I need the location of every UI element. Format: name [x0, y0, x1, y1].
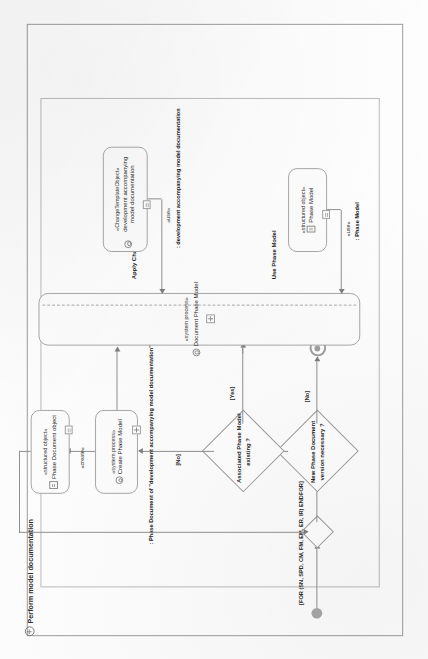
edge-change-template-to-region: [161, 199, 162, 289]
system-process-icon: [116, 476, 124, 484]
scanned-page-background: Perform model documentation [FOR (SN, SP…: [0, 0, 428, 659]
diagram-canvas: Perform model documentation [FOR (SN, SP…: [19, 17, 409, 641]
phase-model-label-row: Phase Model: [307, 187, 316, 232]
document-icon: [49, 481, 58, 488]
system-process-icon-document: [193, 348, 201, 356]
object-flow-create-text: : Phase Document of "development accompa…: [148, 345, 154, 544]
activity-frame-title-label: Perform model documentation: [25, 518, 34, 623]
activity-icon: [25, 626, 35, 636]
change-template-label-row: development accompanying model documenta…: [121, 150, 136, 248]
edge-phase-model-down: [327, 209, 341, 210]
edge-phase-model-to-region: [341, 210, 342, 289]
edge-model-yes-right: [242, 345, 243, 423]
edge-change-template-down: [148, 198, 162, 199]
create-phase-model-stereotype: «system process»: [109, 429, 116, 473]
edge-create-to-region-arrow: [114, 346, 120, 351]
change-template-stereotype: «ChangeTemplateObject»: [114, 167, 121, 230]
label-use-phase-model: Use Phase Model: [271, 230, 278, 279]
object-phase-document[interactable]: «structured object» Phase Document objec…: [31, 409, 70, 493]
activity-frame-title: Perform model documentation: [25, 518, 35, 635]
decision-version-label-line1: New Phase Document: [310, 420, 317, 482]
edge-create-to-region: [117, 349, 118, 409]
guard-model-no: [No]: [175, 454, 181, 465]
guard-model-yes-right: [Yes]: [230, 386, 236, 400]
edge-start-to-merge: [316, 546, 317, 607]
edge-region-left-tick: [242, 345, 243, 353]
create-phase-model-label: Create Phase Model: [116, 419, 124, 474]
object-flow-use-model-stereotype: «use»: [345, 221, 351, 236]
decision-version-label-line2: version necessary ?: [318, 420, 325, 482]
action-create-phase-model[interactable]: «system process» Create Phase Model: [95, 409, 138, 493]
decision-model-label-line1: Associated Phase Model: [235, 420, 242, 482]
edge-return-arrow: [304, 529, 309, 535]
guard-version-no: [No]: [304, 390, 310, 401]
phase-model-pin: [322, 210, 330, 219]
edge-change-template-arrow: [159, 289, 165, 294]
document-phase-model-stereotype: «system process»: [183, 291, 190, 348]
edge-version-no-arrow: [314, 356, 320, 361]
object-flow-use-model-text: : Phase Model: [354, 202, 360, 240]
phase-model-label: Phase Model: [307, 187, 315, 222]
phase-model-icon: [307, 225, 316, 232]
phase-document-pin: [65, 425, 73, 434]
change-template-pin: [143, 200, 151, 209]
edge-return-top: [19, 450, 20, 532]
object-change-template[interactable]: «ChangeTemplateObject» development accom…: [103, 146, 148, 251]
object-flow-use-template-text: : development accompanying model documen…: [175, 108, 181, 248]
change-template-label: development accompanying model documenta…: [121, 150, 136, 237]
decision-model-label-line2: existing ?: [244, 420, 251, 482]
structured-activity-plus-icon-document: [206, 314, 215, 323]
phase-document-label-row: Phase Document object: [49, 414, 58, 488]
edge-phase-model-arrow: [338, 289, 344, 294]
edge-return-left: [19, 531, 306, 532]
document-phase-model-label: Document Phase Model: [193, 281, 201, 345]
guard-for-loop: [FOR (SN, SPD, CM, FM, EM, ER, IR) ENDFO…: [298, 481, 304, 605]
phase-model-stereotype: «structured object»: [300, 186, 307, 232]
change-template-icon: [125, 240, 133, 248]
object-flow-use-template-stereotype: «use»: [165, 207, 171, 222]
phase-document-label: Phase Document object: [50, 414, 58, 478]
create-phase-model-label-row: Create Phase Model: [116, 419, 124, 484]
edge-model-no-arrow: [138, 448, 143, 454]
document-phase-model-label-row: Document Phase Model: [193, 289, 201, 349]
initial-node: [312, 607, 323, 618]
edge-phase-document-up: [19, 450, 31, 451]
object-flow-create-stereotype: «create»: [79, 447, 85, 468]
structured-activity-plus-icon-create: [132, 425, 141, 434]
phase-document-stereotype: «structured object»: [42, 428, 49, 474]
edge-version-no: [316, 359, 317, 423]
